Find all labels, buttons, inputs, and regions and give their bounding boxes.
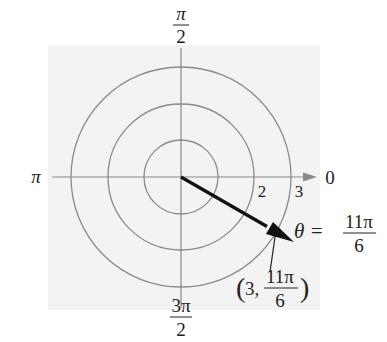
label-pi-over-2-num: π [176, 3, 186, 24]
coord-theta-den: 6 [275, 290, 285, 311]
label-3pi-over-2-num: 3π [171, 295, 191, 316]
label-zero: 0 [325, 167, 335, 188]
coord-theta-num: 11π [266, 266, 294, 287]
polar-diagram: π 2 π 0 3π 2 2 3 θ = 11π 6 ( 3, 11π 6 ) [0, 0, 387, 342]
tick-label-3: 3 [295, 182, 304, 201]
point-marker [271, 227, 281, 237]
label-pi: π [31, 166, 41, 187]
theta-num: 11π [345, 211, 373, 232]
theta-den: 6 [354, 235, 364, 256]
coord-open-paren: ( [236, 272, 245, 303]
coord-r: 3, [245, 278, 259, 299]
theta-label-prefix: θ = [294, 219, 324, 243]
label-pi-over-2-den: 2 [176, 26, 186, 47]
coord-close-paren: ) [300, 272, 309, 303]
label-3pi-over-2-den: 2 [176, 319, 186, 340]
tick-label-2: 2 [258, 182, 267, 201]
